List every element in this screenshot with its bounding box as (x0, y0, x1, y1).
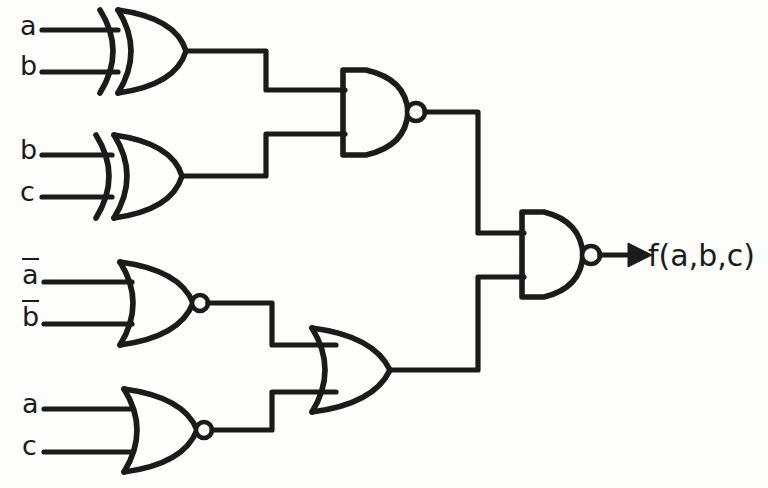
nand-bubble-1 (407, 103, 425, 121)
nor-gate-bottom[interactable] (124, 389, 212, 472)
xor-inner-arc-2 (114, 135, 127, 218)
xor-gate-top[interactable] (100, 10, 186, 93)
wire-xor2-to-nand1 (182, 134, 345, 176)
wires-to-output-nand (390, 112, 524, 370)
output-function-label: f(a,b,c) (648, 238, 755, 273)
nand-body-2 (522, 212, 583, 297)
wire-xor1-to-nand1 (186, 51, 345, 90)
input-label-a-2: a (22, 390, 39, 417)
input-label-c-1: c (20, 178, 35, 205)
input-label-a-bar: a (22, 258, 39, 288)
input-label-b-2: b (20, 136, 37, 163)
nand-body-1 (343, 70, 408, 155)
input-label-a-1: a (20, 12, 37, 39)
nand-bubble-2 (582, 246, 600, 264)
wire-nand1-to-nand2 (425, 112, 524, 233)
xor-inner-arc-1 (118, 10, 131, 93)
xor-outer-arc-1 (100, 10, 113, 93)
output-wire-group (600, 243, 652, 267)
wire-or-to-nand2 (390, 277, 524, 370)
nor-gate-third[interactable] (120, 262, 208, 345)
nor-back-arc-1 (120, 262, 133, 345)
or-back-arc (312, 328, 325, 412)
logic-circuit-diagram: a b b c a b a c f(a,b,c) (0, 0, 768, 488)
nand-gate-output[interactable] (522, 212, 600, 297)
input-label-c-2: c (22, 432, 37, 459)
nor-back-arc-2 (124, 389, 137, 472)
nand-gate-upper-stage[interactable] (343, 70, 425, 155)
input-label-b-1: b (20, 52, 37, 79)
wires-stage1-to-nand1 (182, 51, 345, 176)
input-label-b-bar: b (22, 300, 39, 330)
or-gate-lower-stage[interactable] (312, 328, 390, 412)
xor-outer-arc-2 (96, 135, 109, 218)
xor-gate-second[interactable] (96, 135, 182, 218)
